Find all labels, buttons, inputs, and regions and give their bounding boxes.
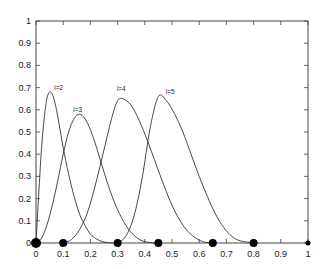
curve-label: i=5 (166, 88, 175, 95)
knot-marker (306, 241, 311, 246)
y-tick-label: 0.9 (18, 38, 31, 48)
knot-marker (154, 239, 162, 247)
curve-label: i=2 (54, 84, 63, 91)
knot-marker (250, 239, 258, 247)
y-tick-label: 1 (26, 16, 31, 26)
x-tick-label: 0.9 (275, 249, 288, 259)
curve-label: i=3 (73, 106, 82, 113)
x-tick-label: 1 (305, 249, 310, 259)
knot-marker (31, 238, 41, 248)
y-tick-label: 0.4 (18, 149, 31, 159)
y-tick-label: 0.6 (18, 105, 31, 115)
y-tick-label: 0.2 (18, 194, 31, 204)
x-tick-label: 0.1 (57, 249, 70, 259)
y-tick-label: 0.7 (18, 83, 31, 93)
y-tick-label: 0.5 (18, 127, 31, 137)
knot-marker (114, 239, 122, 247)
y-tick-label: 0.3 (18, 171, 31, 181)
x-tick-label: 0.5 (166, 249, 179, 259)
y-tick-label: 0.1 (18, 216, 31, 226)
plot-frame (36, 21, 308, 243)
x-tick-label: 0.8 (247, 249, 260, 259)
knot-marker (59, 239, 67, 247)
y-tick-label: 0 (26, 238, 31, 248)
curves (36, 92, 254, 243)
curve-label: i=4 (117, 85, 126, 92)
x-tick-label: 0 (33, 249, 38, 259)
axes: 00.10.20.30.40.50.60.70.80.9100.10.20.30… (18, 16, 310, 259)
knot-marker (209, 239, 217, 247)
x-tick-label: 0.6 (193, 249, 206, 259)
chart: 00.10.20.30.40.50.60.70.80.9100.10.20.30… (0, 0, 326, 269)
x-tick-label: 0.3 (111, 249, 124, 259)
x-tick-label: 0.2 (84, 249, 97, 259)
x-tick-label: 0.7 (220, 249, 233, 259)
y-tick-label: 0.8 (18, 60, 31, 70)
x-tick-label: 0.4 (139, 249, 152, 259)
